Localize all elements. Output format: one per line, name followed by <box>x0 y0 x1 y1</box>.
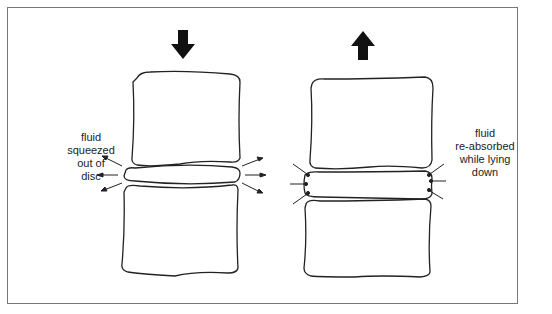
right-disc <box>304 171 432 199</box>
label-line: while lying <box>447 153 523 166</box>
label-line: fluid <box>56 131 126 144</box>
left-lower-vertebra <box>122 185 238 276</box>
left-label: fluid squeezed out of disc <box>56 131 126 183</box>
left-upper-vertebra <box>132 71 240 165</box>
right-label: fluid re-absorbed while lying down <box>447 127 523 179</box>
right-upper-vertebra <box>310 77 433 169</box>
label-line: squeezed <box>56 144 126 157</box>
label-line: down <box>447 166 523 179</box>
down-arrow-icon <box>171 30 195 59</box>
right-lower-vertebra <box>304 199 431 277</box>
up-arrow-icon <box>351 31 375 60</box>
label-line: out of <box>56 157 126 170</box>
label-line: disc <box>56 170 126 183</box>
label-line: fluid <box>447 127 523 140</box>
label-line: re-absorbed <box>447 140 523 153</box>
left-disc <box>124 165 240 184</box>
